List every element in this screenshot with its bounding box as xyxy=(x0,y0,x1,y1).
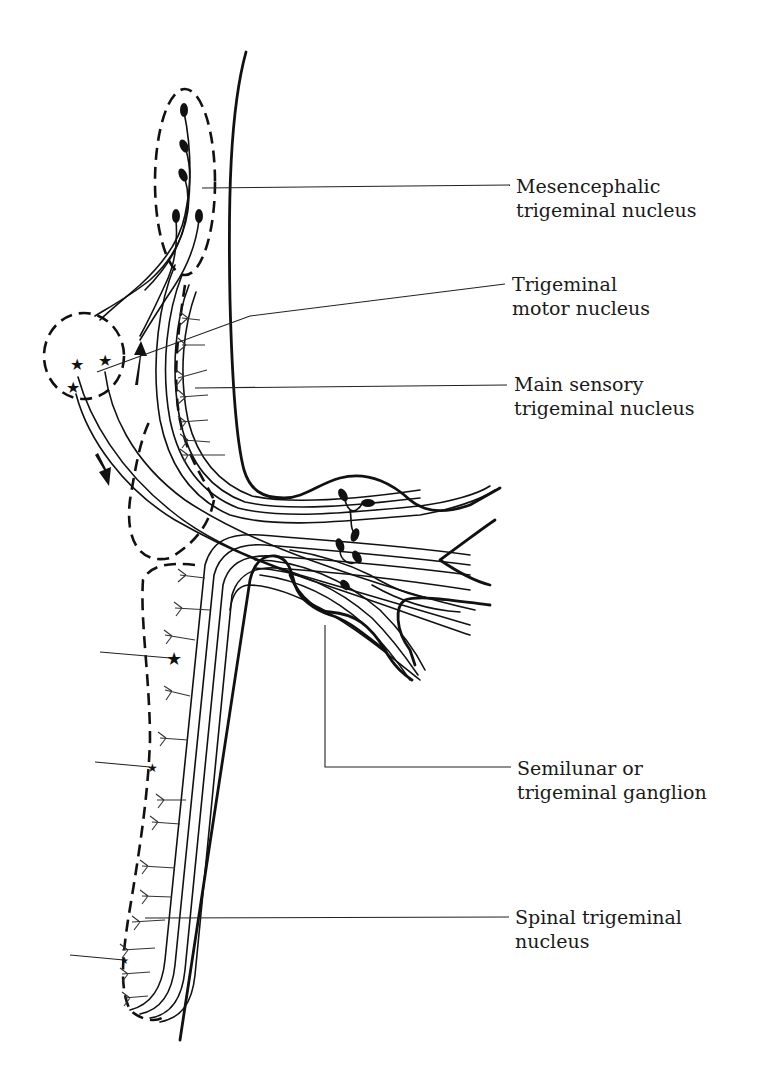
label-motor-nucleus: Trigeminal motor nucleus xyxy=(512,272,650,320)
svg-text:★: ★ xyxy=(66,378,80,397)
label-line: nucleus xyxy=(515,929,682,953)
svg-text:★: ★ xyxy=(120,955,129,966)
label-line: Semilunar or xyxy=(517,756,707,780)
label-line: motor nucleus xyxy=(512,296,650,320)
brainstem-outline xyxy=(229,52,500,511)
label-spinal-nucleus: Spinal trigeminal nucleus xyxy=(515,905,682,953)
label-main-sensory-nucleus: Main sensory trigeminal nucleus xyxy=(514,372,694,420)
motor-arrow-up xyxy=(134,341,147,385)
leader-main-sensory xyxy=(195,385,507,388)
leader-mesencephalic xyxy=(202,185,510,188)
svg-text:★: ★ xyxy=(70,355,84,374)
svg-text:★: ★ xyxy=(147,761,158,775)
label-trigeminal-ganglion: Semilunar or trigeminal ganglion xyxy=(517,756,707,804)
label-line: Trigeminal xyxy=(512,272,650,296)
mesencephalic-neurons xyxy=(95,103,203,340)
leader-ganglion xyxy=(325,625,511,767)
label-line: trigeminal nucleus xyxy=(516,198,696,222)
label-line: trigeminal ganglion xyxy=(517,780,707,804)
label-line: Mesencephalic xyxy=(516,174,696,198)
label-line: trigeminal nucleus xyxy=(514,396,694,420)
label-line: Main sensory xyxy=(514,372,694,396)
spinal-nucleus-outline xyxy=(123,564,195,1020)
motor-arrow-down xyxy=(95,453,111,486)
svg-text:★: ★ xyxy=(166,648,182,669)
label-line: Spinal trigeminal xyxy=(515,905,682,929)
label-mesencephalic-nucleus: Mesencephalic trigeminal nucleus xyxy=(516,174,696,222)
